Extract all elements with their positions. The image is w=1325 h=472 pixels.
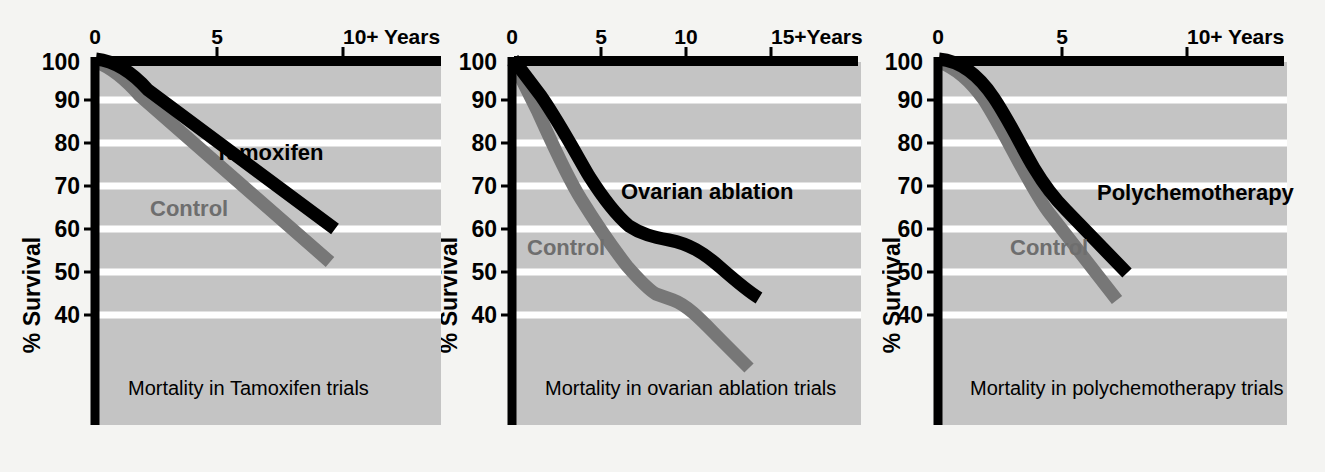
y-tick-label-100: 100 <box>459 49 497 75</box>
series-label-treatment: Tamoxifen <box>215 140 323 165</box>
y-tick-label-40: 40 <box>54 302 80 328</box>
series-label-control: Control <box>1010 235 1088 260</box>
y-tick-label-100: 100 <box>42 49 80 75</box>
panel-caption: Mortality in ovarian ablation trials <box>545 377 836 399</box>
panel-caption: Mortality in polychemotherapy trials <box>970 377 1283 399</box>
y-tick-label-100: 100 <box>885 49 923 75</box>
y-axis-title: % Survival <box>882 237 905 353</box>
y-tick-label-50: 50 <box>54 259 80 285</box>
y-tick-label-60: 60 <box>54 216 80 242</box>
y-tick-label-80: 80 <box>471 130 497 156</box>
figure-container: 0 5 10+ Years 100 90 80 70 60 50 40 % Su… <box>0 0 1325 472</box>
y-tick-label-70: 70 <box>471 173 497 199</box>
series-label-treatment: Polychemotherapy <box>1097 180 1295 205</box>
x-axis-end-label: 15+Years <box>771 25 863 48</box>
x-tick-label-1: 5 <box>595 25 607 48</box>
y-axis-title: % Survival <box>19 237 45 353</box>
panel-polychemotherapy: 0 5 10+ Years 100 90 80 70 60 50 40 % Su… <box>882 0 1323 472</box>
y-tick-label-90: 90 <box>54 87 80 113</box>
x-tick-label-0: 0 <box>89 25 101 48</box>
x-axis-end-label: 10+ Years <box>343 25 440 48</box>
series-label-control: Control <box>150 196 228 221</box>
chart-polychemotherapy: 0 5 10+ Years 100 90 80 70 60 50 40 % Su… <box>882 0 1325 472</box>
panel-tamoxifen: 0 5 10+ Years 100 90 80 70 60 50 40 % Su… <box>0 0 441 472</box>
x-axis-end-label: 10+ Years <box>1187 25 1284 48</box>
plot-background <box>97 62 441 425</box>
x-tick-label-0: 0 <box>506 25 518 48</box>
y-tick-label-40: 40 <box>471 302 497 328</box>
series-label-treatment: Ovarian ablation <box>621 179 793 204</box>
y-tick-label-80: 80 <box>897 130 923 156</box>
x-tick-label-0: 0 <box>932 25 944 48</box>
chart-ovarian-ablation: 0 5 10 15+Years 100 90 80 70 60 50 40 % … <box>441 0 882 472</box>
y-tick-label-60: 60 <box>471 216 497 242</box>
x-tick-label-1: 5 <box>1056 25 1068 48</box>
panel-ovarian-ablation: 0 5 10 15+Years 100 90 80 70 60 50 40 % … <box>441 0 882 472</box>
y-tick-label-70: 70 <box>54 173 80 199</box>
y-tick-label-70: 70 <box>897 173 923 199</box>
panel-caption: Mortality in Tamoxifen trials <box>128 377 369 399</box>
y-tick-label-80: 80 <box>54 130 80 156</box>
x-tick-label-2: 10 <box>674 25 697 48</box>
y-axis-title: % Survival <box>441 237 462 353</box>
chart-tamoxifen: 0 5 10+ Years 100 90 80 70 60 50 40 % Su… <box>0 0 441 472</box>
series-label-control: Control <box>527 235 605 260</box>
y-tick-label-50: 50 <box>471 259 497 285</box>
y-tick-label-90: 90 <box>897 87 923 113</box>
y-tick-label-90: 90 <box>471 87 497 113</box>
x-tick-label-1: 5 <box>211 25 223 48</box>
